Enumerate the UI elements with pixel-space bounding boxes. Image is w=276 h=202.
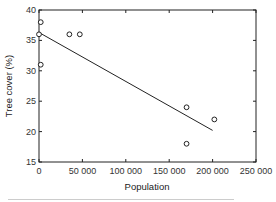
data-points <box>37 20 217 146</box>
x-tick-labels: 050 000100 000150 000200 000250 000 <box>36 166 272 176</box>
data-point <box>212 117 217 122</box>
data-point <box>184 105 189 110</box>
x-tick-label: 0 <box>36 166 41 176</box>
y-tick-label: 25 <box>26 96 36 106</box>
data-point <box>37 32 42 37</box>
scatter-chart: 152025303540 050 000100 000150 000200 00… <box>0 0 276 202</box>
data-point <box>184 141 189 146</box>
y-tick-label: 20 <box>26 127 36 137</box>
bottom-divider <box>8 199 234 200</box>
x-tick-label: 100 000 <box>110 166 143 176</box>
x-tick-label: 250 000 <box>240 166 273 176</box>
data-point <box>77 32 82 37</box>
y-tick-label: 40 <box>26 5 36 15</box>
y-tick-label: 15 <box>26 157 36 167</box>
x-tick-label: 150 000 <box>153 166 186 176</box>
y-tick-labels: 152025303540 <box>26 5 36 167</box>
data-point <box>38 62 43 67</box>
data-point <box>38 20 43 25</box>
x-axis-label: Population <box>125 181 170 192</box>
trend-line <box>39 32 213 130</box>
y-tick-label: 30 <box>26 66 36 76</box>
x-tick-label: 200 000 <box>196 166 229 176</box>
y-axis-label: Tree cover (%) <box>3 55 14 117</box>
data-point <box>67 32 72 37</box>
x-tick-label: 50 000 <box>69 166 97 176</box>
regression-line <box>39 32 213 130</box>
y-tick-label: 35 <box>26 35 36 45</box>
